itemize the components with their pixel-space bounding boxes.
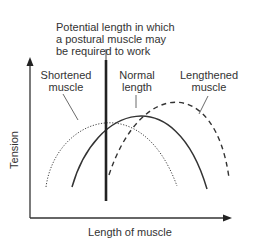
lengthened-muscle-curve xyxy=(109,102,229,178)
shortened-muscle-label: Shortened muscle xyxy=(33,69,99,93)
lengthened-leader-line xyxy=(199,96,208,114)
shortened-leader-line xyxy=(63,94,78,120)
annotation-line-1: Potential length in which xyxy=(56,21,175,33)
y-axis-arrow-icon xyxy=(27,57,34,66)
annotation-line-2: a postural muscle may xyxy=(56,33,175,45)
length-tension-diagram: Potential length in which a postural mus… xyxy=(0,0,260,245)
lengthened-muscle-label: Lengthened muscle xyxy=(172,69,246,93)
normal-label-line-1: Normal xyxy=(113,69,161,81)
x-axis-label: Length of muscle xyxy=(70,226,190,238)
lengthened-label-line-1: Lengthened xyxy=(172,69,246,81)
normal-length-label: Normal length xyxy=(113,69,161,93)
lengthened-label-line-2: muscle xyxy=(172,81,246,93)
postural-length-annotation: Potential length in which a postural mus… xyxy=(56,21,175,57)
shortened-label-line-1: Shortened xyxy=(33,69,99,81)
shortened-muscle-curve xyxy=(46,123,177,187)
y-axis-label: Tension xyxy=(8,125,20,175)
normal-length-curve xyxy=(72,116,207,189)
annotation-line-3: be required to work xyxy=(56,45,175,57)
normal-label-line-2: length xyxy=(113,81,161,93)
x-axis-arrow-icon xyxy=(223,215,232,222)
shortened-label-line-2: muscle xyxy=(33,81,99,93)
